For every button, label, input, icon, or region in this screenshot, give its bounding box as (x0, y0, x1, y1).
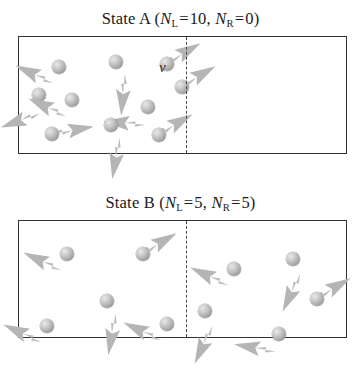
state-a-right-chamber (186, 37, 346, 153)
gas-particle-sphere (141, 100, 155, 114)
state-a-nl-symbol: N (160, 9, 171, 28)
state-a-block: State A (NL=10, NR=0) v (0, 6, 361, 34)
state-b-title-prefix: State B ( (105, 193, 165, 212)
gas-particle-sphere (45, 127, 59, 141)
state-b-partition-divider (186, 221, 187, 337)
gas-particle-sphere (198, 304, 212, 318)
gas-particle-sphere (109, 55, 123, 69)
state-a-left-count: 10 (190, 9, 207, 28)
gas-particle-sphere (65, 93, 79, 107)
gas-particle-sphere (60, 247, 74, 261)
state-a-nr-subscript: R (226, 18, 233, 29)
state-b-right-count: 5 (241, 193, 249, 212)
state-b-right-equals: = (230, 193, 242, 212)
state-a-title: State A (NL=10, NR=0) (0, 6, 361, 34)
gas-particle-sphere (104, 118, 118, 132)
state-b-left-equals: = (183, 193, 195, 212)
gas-particle-sphere (40, 319, 54, 333)
state-b-block: State B (NL=5, NR=5) (0, 190, 361, 218)
velocity-arrow-icon (113, 71, 135, 116)
state-b-nr-subscript: R (223, 202, 230, 213)
state-a-right-count: 0 (245, 9, 253, 28)
gas-particle-sphere (310, 292, 324, 306)
state-b-container-box (18, 220, 347, 338)
state-a-left-chamber (19, 37, 186, 153)
state-b-left-chamber (19, 221, 186, 337)
velocity-arrow-icon (187, 320, 222, 367)
velocity-arrow-icon (232, 336, 278, 361)
state-a-container-box: v (18, 36, 347, 154)
state-a-nr-symbol: N (215, 9, 226, 28)
velocity-arrow-icon (104, 134, 129, 180)
gas-particle-sphere (100, 294, 114, 308)
gas-particle-sphere (152, 128, 166, 142)
gas-particle-sphere (286, 252, 300, 266)
state-a-title-comma: , (207, 9, 216, 28)
gas-particle-sphere (160, 317, 174, 331)
state-a-left-equals: = (178, 9, 190, 28)
state-a-right-equals: = (234, 9, 246, 28)
gas-particle-sphere (272, 327, 286, 341)
state-b-nl-subscript: L (176, 202, 183, 213)
state-a-title-prefix: State A ( (102, 9, 161, 28)
state-a-title-suffix: ) (254, 9, 260, 28)
velocity-label: v (159, 59, 166, 76)
state-b-title: State B (NL=5, NR=5) (0, 190, 361, 218)
state-b-nl-symbol: N (165, 193, 176, 212)
gas-particle-sphere (136, 247, 150, 261)
state-b-nr-symbol: N (211, 193, 222, 212)
state-b-right-chamber (186, 221, 346, 337)
gas-particle-sphere (52, 60, 66, 74)
velocity-arrow-icon (275, 268, 310, 315)
state-b-left-count: 5 (194, 193, 202, 212)
state-b-title-suffix: ) (250, 193, 256, 212)
state-a-nl-subscript: L (172, 18, 179, 29)
state-a-partition-divider (186, 37, 187, 153)
gas-particle-sphere (227, 262, 241, 276)
